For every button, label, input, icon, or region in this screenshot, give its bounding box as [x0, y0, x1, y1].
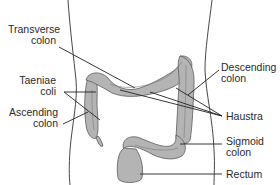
leader-lines [59, 47, 222, 174]
label-transverse-colon: Transverse colon [8, 24, 56, 46]
label-haustra-line1: Haustra [226, 111, 263, 122]
body-outline-right [205, 0, 214, 185]
label-taeniae-coli-line2: coli [14, 86, 56, 97]
label-sigmoid-colon: Sigmoid colon [226, 136, 264, 158]
colon-diagram: Transverse colon Taeniae coli Ascending … [0, 0, 280, 185]
label-transverse-colon-line2: colon [8, 35, 56, 46]
colon-shape [85, 56, 194, 183]
label-sigmoid-colon-line2: colon [226, 147, 264, 158]
label-descending-colon: Descending colon [221, 62, 276, 84]
label-rectum: Rectum [226, 169, 262, 180]
label-ascending-colon: Ascending colon [4, 107, 58, 129]
body-outline-left [68, 0, 76, 185]
label-taeniae-coli: Taeniae coli [14, 75, 56, 97]
label-ascending-colon-line2: colon [4, 118, 58, 129]
label-rectum-line1: Rectum [226, 169, 262, 180]
label-descending-colon-line2: colon [221, 73, 276, 84]
label-haustra: Haustra [226, 111, 263, 122]
